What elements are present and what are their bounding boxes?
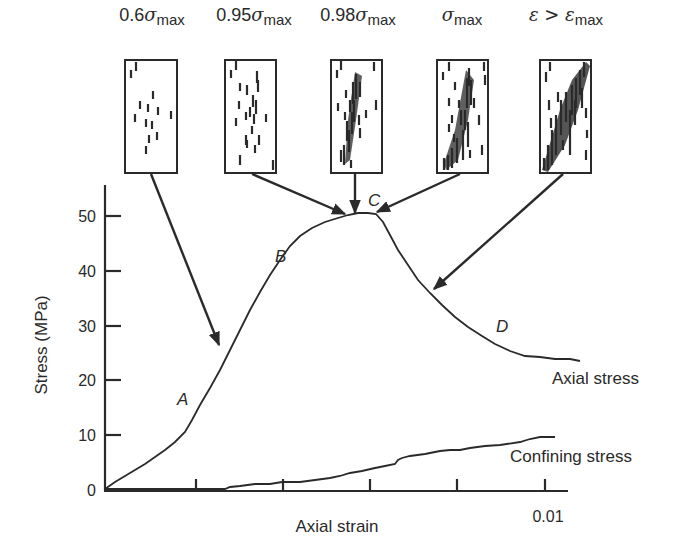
- y-tick-50: 50: [78, 208, 96, 225]
- axial-stress-curve: [105, 213, 580, 489]
- x-tick-0-01: 0.01: [532, 508, 563, 525]
- axial-stress-label: Axial stress: [552, 369, 639, 388]
- point-c-label: C: [368, 191, 381, 210]
- y-tick-labels: 0 10 20 30 40 50: [78, 208, 96, 499]
- y-tick-0: 0: [87, 482, 96, 499]
- confining-stress-label: Confining stress: [510, 447, 632, 466]
- arrow-0-6: [151, 174, 219, 345]
- y-axis-label: Stress (MPa): [32, 295, 51, 394]
- arrow-sigma-max: [377, 174, 460, 212]
- y-tick-30: 30: [78, 318, 96, 335]
- stress-strain-chart: 0 10 20 30 40 50 0.01 Axial strain Stres…: [0, 0, 694, 559]
- x-axis-label: Axial strain: [295, 517, 378, 536]
- y-tick-20: 20: [78, 372, 96, 389]
- arrow-epsilon: [434, 174, 563, 289]
- point-a-label: A: [176, 390, 188, 409]
- y-tick-10: 10: [78, 427, 96, 444]
- arrow-0-95: [252, 174, 345, 214]
- y-tick-40: 40: [78, 263, 96, 280]
- point-d-label: D: [496, 317, 508, 336]
- point-b-label: B: [275, 247, 286, 266]
- inset-box-0-6: [125, 60, 177, 173]
